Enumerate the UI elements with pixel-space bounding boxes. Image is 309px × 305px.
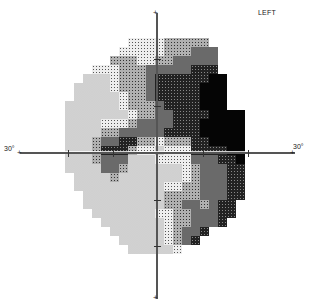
field-cell-tone-4 [209, 209, 218, 218]
field-cell-tone-2 [110, 65, 119, 74]
field-cell-tone-4 [182, 227, 191, 236]
field-cell-tone-1 [83, 137, 92, 146]
field-cell-tone-1 [74, 101, 83, 110]
field-cell-tone-1 [110, 200, 119, 209]
field-cell-tone-4 [218, 182, 227, 191]
field-cell-tone-4 [119, 128, 128, 137]
field-cell-tone-5 [227, 200, 236, 209]
field-cell-tone-1 [74, 155, 83, 164]
tick-mark [154, 106, 161, 107]
field-cell-tone-1 [137, 200, 146, 209]
field-cell-tone-6 [209, 83, 218, 92]
field-cell-tone-1 [128, 200, 137, 209]
field-cell-tone-1 [83, 74, 92, 83]
field-cell-tone-4 [209, 173, 218, 182]
field-cell-tone-6 [209, 119, 218, 128]
field-cell-tone-6 [236, 137, 245, 146]
field-cell-tone-1 [101, 191, 110, 200]
field-cell-tone-4 [110, 137, 119, 146]
field-cell-tone-6 [200, 92, 209, 101]
field-cell-tone-1 [173, 164, 182, 173]
field-cell-tone-3 [182, 182, 191, 191]
field-cell-tone-1 [74, 137, 83, 146]
field-cell-tone-4 [209, 155, 218, 164]
field-cell-tone-5 [200, 74, 209, 83]
field-cell-tone-3 [92, 137, 101, 146]
field-cell-tone-3 [119, 74, 128, 83]
field-cell-tone-2 [92, 65, 101, 74]
field-cell-tone-4 [218, 164, 227, 173]
field-cell-tone-1 [83, 173, 92, 182]
field-cell-tone-5 [173, 92, 182, 101]
field-cell-tone-6 [209, 101, 218, 110]
field-cell-tone-4 [110, 164, 119, 173]
field-cell-tone-3 [128, 65, 137, 74]
field-cell-tone-1 [92, 83, 101, 92]
field-cell-tone-1 [83, 128, 92, 137]
field-cell-tone-4 [146, 65, 155, 74]
field-cell-tone-5 [164, 74, 173, 83]
field-cell-tone-6 [218, 101, 227, 110]
field-cell-tone-3 [200, 200, 209, 209]
field-cell-tone-6 [209, 74, 218, 83]
field-cell-tone-6 [218, 74, 227, 83]
field-cell-tone-3 [164, 56, 173, 65]
tick-mark [154, 200, 161, 201]
field-cell-tone-5 [164, 128, 173, 137]
field-cell-tone-1 [101, 200, 110, 209]
field-cell-tone-6 [209, 137, 218, 146]
field-cell-tone-1 [110, 218, 119, 227]
field-cell-tone-4 [101, 137, 110, 146]
field-cell-tone-3 [119, 56, 128, 65]
field-cell-tone-1 [74, 119, 83, 128]
field-cell-tone-1 [119, 173, 128, 182]
field-cell-tone-1 [110, 227, 119, 236]
field-cell-tone-3 [191, 173, 200, 182]
field-cell-tone-1 [101, 101, 110, 110]
field-cell-tone-5 [191, 137, 200, 146]
field-cell-tone-1 [164, 173, 173, 182]
vertical-axis [156, 13, 158, 299]
field-cell-tone-1 [146, 173, 155, 182]
field-cell-tone-1 [128, 236, 137, 245]
field-cell-tone-1 [119, 209, 128, 218]
field-cell-tone-6 [200, 128, 209, 137]
field-cell-tone-2 [119, 47, 128, 56]
field-cell-tone-3 [173, 236, 182, 245]
field-cell-tone-4 [200, 164, 209, 173]
field-cell-tone-6 [227, 119, 236, 128]
field-cell-tone-3 [182, 209, 191, 218]
field-cell-tone-1 [101, 173, 110, 182]
tick-mark [154, 246, 161, 247]
field-cell-tone-3 [119, 83, 128, 92]
field-cell-tone-4 [182, 65, 191, 74]
field-cell-tone-1 [83, 101, 92, 110]
field-cell-tone-4 [146, 83, 155, 92]
field-cell-tone-6 [218, 137, 227, 146]
field-cell-tone-4 [101, 164, 110, 173]
field-cell-tone-3 [128, 101, 137, 110]
field-cell-tone-4 [191, 200, 200, 209]
field-cell-tone-5 [119, 137, 128, 146]
field-cell-tone-2 [128, 110, 137, 119]
field-cell-tone-4 [191, 209, 200, 218]
field-cell-tone-1 [137, 173, 146, 182]
field-cell-tone-4 [137, 119, 146, 128]
field-cell-tone-5 [182, 110, 191, 119]
field-cell-tone-3 [137, 83, 146, 92]
field-cell-tone-3 [173, 218, 182, 227]
field-cell-tone-5 [227, 164, 236, 173]
field-cell-tone-1 [101, 110, 110, 119]
field-cell-tone-1 [119, 218, 128, 227]
field-cell-tone-4 [146, 74, 155, 83]
field-cell-tone-5 [164, 92, 173, 101]
field-cell-tone-4 [128, 128, 137, 137]
field-cell-tone-1 [128, 191, 137, 200]
field-cell-tone-1 [65, 101, 74, 110]
field-cell-tone-5 [164, 83, 173, 92]
field-cell-tone-3 [110, 56, 119, 65]
axis-right-end-icon: + [290, 149, 295, 157]
field-cell-tone-1 [101, 92, 110, 101]
field-cell-tone-3 [164, 191, 173, 200]
field-cell-tone-2 [119, 119, 128, 128]
